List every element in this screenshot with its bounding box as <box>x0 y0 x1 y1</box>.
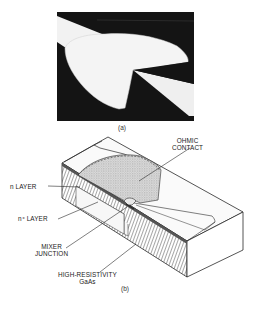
label-mixer-junction: MIXER JUNCTION <box>35 243 68 257</box>
device-cross-section-diagram <box>0 0 256 310</box>
panel-b-caption: (b) <box>121 285 129 292</box>
label-n-plus-layer: n⁺ LAYER <box>18 215 48 222</box>
label-ohmic-contact: OHMIC CONTACT <box>172 137 203 151</box>
label-substrate: HIGH-RESISTIVITY GaAs <box>58 271 117 285</box>
leader-substrate <box>100 244 136 272</box>
label-n-layer: n LAYER <box>10 183 37 190</box>
